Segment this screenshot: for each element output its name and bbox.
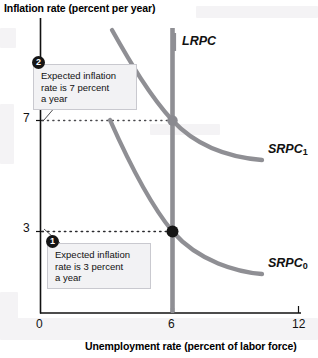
y-tick-label-3: 3 (23, 221, 30, 235)
srpc1-curve-label: SRPC1 (268, 142, 308, 157)
callout-2-line-3: a year (41, 93, 130, 105)
callout-2-line-2: rate is 7 percent (41, 82, 130, 94)
equilibrium-point-lower (167, 226, 179, 238)
x-tick-label-12: 12 (292, 317, 305, 331)
srpc0-label-base: SRPC (268, 256, 303, 270)
annotation-callout-1: Expected inflation rate is 3 percent a y… (47, 243, 151, 289)
chart-canvas (0, 0, 318, 358)
srpc0-label-subscript: 0 (303, 261, 308, 271)
callout-1-line-3: a year (55, 272, 144, 284)
lrpc-curve-label: LRPC (182, 34, 216, 48)
srpc1-label-base: SRPC (268, 142, 303, 156)
x-tick-label-6: 6 (168, 317, 175, 331)
callout-1-line-2: rate is 3 percent (55, 261, 144, 273)
callout-2-line-1: Expected inflation (41, 70, 130, 82)
x-axis-title: Unemployment rate (percent of labor forc… (85, 340, 297, 352)
annotation-badge-1: 1 (46, 235, 59, 248)
y-tick-label-7: 7 (23, 111, 30, 125)
x-tick-label-0: 0 (36, 317, 43, 331)
srpc0-curve-label: SRPC0 (268, 256, 308, 271)
annotation-callout-2: Expected inflation rate is 7 percent a y… (33, 64, 137, 110)
phillips-curve-figure: Inflation rate (percent per year) Unempl… (0, 0, 318, 358)
annotation-badge-2: 2 (32, 56, 45, 69)
equilibrium-point-upper (167, 115, 177, 125)
y-axis-title: Inflation rate (percent per year) (4, 2, 155, 14)
callout-1-line-1: Expected inflation (55, 249, 144, 261)
srpc1-label-subscript: 1 (303, 147, 308, 157)
